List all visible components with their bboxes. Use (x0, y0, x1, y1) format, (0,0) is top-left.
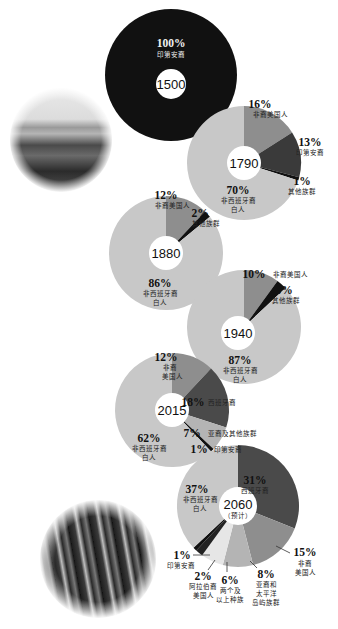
pct-1940-white: 87% (229, 354, 252, 366)
pct-2015-asian: 7% (183, 427, 200, 439)
label-1940-white-1: 非西班牙裔 (223, 366, 258, 375)
pct-1940-black: 10% (243, 268, 266, 280)
label-2015-white-2: 白人 (142, 453, 156, 462)
pct-2060-multi: 6% (221, 574, 238, 586)
label-1940-other: 其他族群 (272, 296, 300, 305)
pct-1880-white: 86% (149, 277, 172, 289)
year-2060: 2060 (224, 497, 253, 512)
label-2060-asian-2: 太平洋 (256, 589, 277, 598)
label-2015-black-1: 非裔 (163, 363, 177, 372)
pct-1940-other: 3% (275, 284, 292, 296)
label-1940-black: 非裔美国人 (273, 270, 308, 279)
pct-1500-native: 100% (157, 37, 186, 49)
pct-2060-hispanic: 31% (244, 474, 267, 486)
label-2060-hispanic: 西班牙裔 (241, 486, 269, 495)
label-1790-white-1: 非西班牙裔 (221, 196, 256, 205)
pct-1880-black: 12% (155, 189, 178, 201)
label-1940-white-2: 白人 (233, 375, 247, 384)
year-2060-projected: （预计） (224, 511, 252, 520)
label-1880-white-2: 白人 (153, 298, 167, 307)
pct-2060-asian: 8% (257, 568, 274, 580)
label-2060-asian-1: 亚裔和 (256, 580, 277, 589)
label-2060-arab-2: 美国人 (193, 591, 214, 600)
label-2015-native: 印第安裔 (214, 445, 242, 454)
label-2060-arab-1: 阿拉伯裔 (189, 582, 217, 591)
pct-2015-white: 62% (138, 432, 161, 444)
pct-2015-black: 12% (155, 351, 178, 363)
pct-1790-white: 70% (227, 184, 250, 196)
pct-1790-black: 16% (249, 98, 272, 110)
label-1880-other: 其他族群 (192, 219, 220, 228)
label-2060-white-1: 非西班牙裔 (183, 495, 218, 504)
label-1880-black: 非裔美国人 (155, 201, 190, 210)
pct-2060-white: 37% (186, 483, 209, 495)
pct-1880-other: 2% (191, 207, 208, 219)
year-1880: 1880 (152, 246, 181, 261)
label-2060-asian-3: 岛屿族群 (252, 598, 280, 607)
label-1790-native: 印第安裔 (296, 148, 324, 157)
label-2060-multi-1: 两个及 (220, 587, 241, 595)
pct-2060-arab: 2% (194, 570, 211, 582)
label-2060-white-2: 白人 (193, 504, 207, 513)
label-1880-white-1: 非西班牙裔 (143, 289, 178, 298)
pct-1790-native: 13% (299, 136, 322, 148)
label-2060-black-1: 非裔 (298, 559, 312, 568)
year-1790: 1790 (230, 156, 259, 171)
label-1500-native: 印第安裔 (157, 50, 185, 59)
label-1790-other: 其他族群 (288, 187, 316, 196)
year-1940: 1940 (224, 326, 253, 341)
year-1500: 1500 (157, 77, 186, 92)
label-2015-asian: 亚裔及其他族群 (208, 429, 257, 438)
pct-2060-native: 1% (173, 549, 190, 561)
label-1790-white-2: 白人 (231, 205, 245, 214)
label-2015-white-1: 非西班牙裔 (132, 444, 167, 453)
pct-2060-black: 15% (294, 546, 317, 558)
label-2060-black-2: 美国人 (295, 568, 316, 577)
label-2015-black-2: 美国人 (162, 372, 183, 381)
label-2060-multi-2: 以上种族 (216, 595, 244, 604)
pct-1790-other: 1% (293, 175, 310, 187)
label-1790-black: 非裔美国人 (253, 110, 288, 119)
label-2015-hispanic: 西班牙裔 (208, 398, 236, 407)
label-2060-native: 印第安裔 (167, 561, 195, 570)
pct-2015-hispanic: 18% (182, 396, 205, 408)
pct-2015-native: 1% (190, 443, 207, 455)
